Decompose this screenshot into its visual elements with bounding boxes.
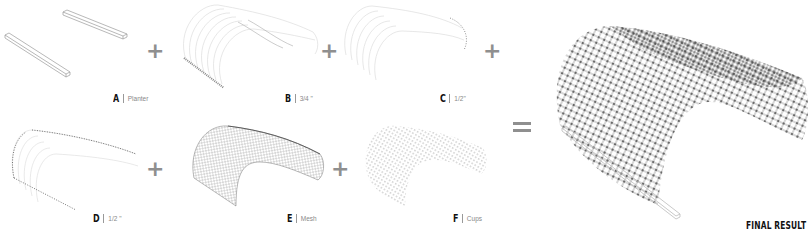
- label-desc: Cups: [467, 215, 482, 222]
- panel-e-mesh: E Mesh: [180, 118, 330, 228]
- plus-operator-4: +: [146, 158, 164, 180]
- label-divider: [123, 94, 124, 103]
- equals-bar-top: [513, 122, 531, 125]
- label-letter: F: [453, 213, 458, 224]
- arch-b-drawing: [178, 0, 328, 90]
- label-divider: [296, 214, 297, 223]
- final-canopy-drawing: [540, 0, 808, 237]
- equals-bar-bottom: [513, 129, 531, 132]
- label-divider: [462, 214, 463, 223]
- label-divider: [103, 214, 104, 223]
- label-f: F Cups: [453, 213, 482, 224]
- label-desc: Mesh: [301, 215, 317, 222]
- plus-operator-3: +: [483, 40, 501, 62]
- label-desc: 1/2 ": [108, 215, 121, 222]
- panel-d-half-inch-cross: D 1/2 ": [0, 118, 140, 228]
- label-letter: D: [93, 213, 100, 224]
- equals-operator: [513, 122, 531, 136]
- label-divider: [295, 94, 296, 103]
- panel-final-result: FINAL RESULT: [540, 0, 808, 237]
- label-letter: C: [440, 93, 446, 104]
- label-desc: 1/2": [454, 95, 465, 102]
- panel-a-planter: A Planter: [0, 0, 140, 110]
- label-a: A Planter: [113, 93, 148, 104]
- label-desc: 3/4 ": [300, 95, 313, 102]
- label-d: D 1/2 ": [93, 213, 121, 224]
- planter-drawing: [0, 0, 140, 90]
- panel-c-half-inch-tube: C 1/2": [340, 0, 480, 110]
- label-e: E Mesh: [287, 213, 317, 224]
- label-divider: [449, 94, 450, 103]
- label-b: B 3/4 ": [285, 93, 313, 104]
- panel-b-three-quarter-tube: B 3/4 ": [178, 0, 328, 110]
- final-result-label: FINAL RESULT: [746, 220, 806, 231]
- arch-d-drawing: [0, 118, 140, 213]
- arch-c-drawing: [340, 0, 480, 90]
- label-letter: E: [287, 213, 292, 224]
- plus-operator-2: +: [320, 40, 338, 62]
- arch-f-drawing: [355, 118, 495, 213]
- label-letter: A: [113, 93, 119, 104]
- label-desc: Planter: [128, 95, 149, 102]
- panel-f-cups: F Cups: [355, 118, 495, 228]
- plus-operator-5: +: [331, 158, 349, 180]
- label-c: C 1/2": [440, 93, 466, 104]
- plus-operator-1: +: [146, 40, 164, 62]
- label-letter: B: [285, 93, 291, 104]
- arch-e-drawing: [180, 118, 330, 213]
